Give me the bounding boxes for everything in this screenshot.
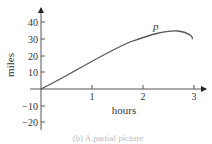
y-ticks: [41, 22, 45, 122]
svg-text:1: 1: [90, 91, 95, 102]
x-axis-label: hours: [112, 104, 136, 116]
position-time-chart: 40 30 20 10 −10 −20 1 2 3 hours miles p …: [0, 0, 212, 144]
x-ticks: [92, 85, 194, 89]
svg-text:−20: −20: [22, 117, 38, 128]
x-tick-labels: 1 2 3: [90, 91, 197, 102]
svg-text:−10: −10: [22, 101, 38, 112]
y-axis-label: miles: [4, 53, 16, 77]
position-curve: [41, 31, 192, 89]
y-tick-labels: 40 30 20 10 −10 −20: [22, 17, 38, 128]
svg-text:30: 30: [28, 34, 38, 45]
svg-text:10: 10: [28, 67, 38, 78]
curve-label-p: p: [152, 20, 159, 32]
caption: (b) A partial picture: [73, 133, 144, 143]
svg-text:3: 3: [192, 91, 197, 102]
svg-text:2: 2: [141, 91, 146, 102]
svg-text:20: 20: [28, 51, 38, 62]
svg-text:40: 40: [28, 17, 38, 28]
